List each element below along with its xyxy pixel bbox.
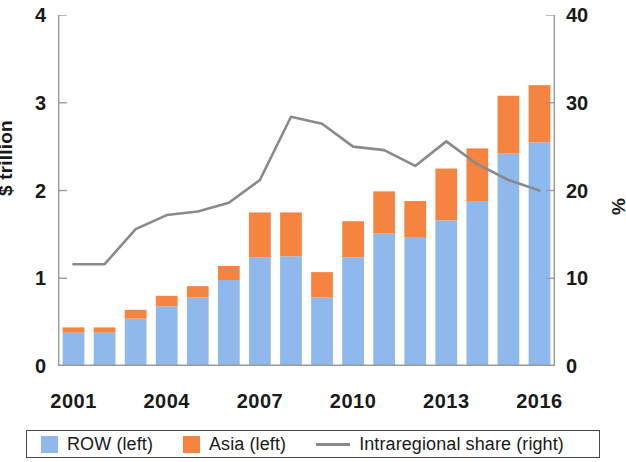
- bar-segment-row: [404, 237, 426, 366]
- bar-segment-asia: [63, 327, 85, 332]
- bar-segment-asia: [187, 286, 209, 297]
- bar-segment-row: [529, 142, 551, 366]
- bar-segment-asia: [218, 266, 240, 280]
- x-tick-label-2007: 2007: [237, 390, 284, 413]
- x-tick-label-2004: 2004: [143, 390, 190, 413]
- bar-2008: [280, 212, 302, 366]
- bar-segment-asia: [125, 310, 147, 319]
- legend-item-0[interactable]: ROW (left): [41, 434, 153, 455]
- bar-2010: [342, 221, 364, 366]
- bar-segment-asia: [342, 221, 364, 257]
- bar-2004: [156, 296, 178, 366]
- bar-segment-row: [94, 333, 116, 366]
- bar-2003: [125, 310, 147, 366]
- bar-2014: [466, 148, 488, 366]
- bar-2011: [373, 191, 395, 366]
- bars-group: [63, 85, 551, 366]
- y-axis-left-title: $ trillion: [0, 120, 17, 196]
- y-tick-label-left-3: 3: [35, 93, 46, 113]
- legend-line-icon: [316, 443, 350, 446]
- y-tick-label-left-0: 0: [35, 356, 46, 376]
- y-tick-label-right-10: 10: [566, 268, 588, 288]
- bar-segment-row: [63, 333, 85, 366]
- y-tick-label-right-0: 0: [566, 356, 577, 376]
- y-tick-label-left-4: 4: [35, 5, 46, 25]
- bar-2012: [404, 201, 426, 366]
- bar-2016: [529, 85, 551, 366]
- bar-segment-asia: [498, 96, 520, 154]
- bar-segment-row: [311, 298, 333, 366]
- bar-segment-row: [280, 256, 302, 366]
- bar-2002: [94, 327, 116, 366]
- chart-figure: $ trillion % 012340102030402001200420072…: [0, 0, 626, 462]
- bar-2015: [498, 96, 520, 366]
- legend-swatch-icon: [41, 436, 58, 453]
- legend-item-2[interactable]: Intraregional share (right): [316, 434, 564, 455]
- bar-segment-asia: [280, 212, 302, 256]
- bar-segment-row: [373, 234, 395, 367]
- bar-segment-row: [342, 257, 364, 366]
- x-tick-label-2013: 2013: [423, 390, 470, 413]
- bar-segment-row: [249, 257, 271, 366]
- plot-area: [58, 15, 555, 366]
- bar-segment-asia: [249, 212, 271, 257]
- bar-segment-asia: [466, 148, 488, 201]
- bar-2001: [63, 327, 85, 366]
- bar-segment-row: [156, 306, 178, 366]
- bar-2005: [187, 286, 209, 366]
- bar-segment-row: [187, 298, 209, 366]
- bar-segment-row: [498, 154, 520, 366]
- chart-canvas: [58, 15, 555, 366]
- bar-segment-row: [125, 319, 147, 366]
- bar-2009: [311, 272, 333, 366]
- y-axis-right-title: %: [608, 198, 626, 215]
- y-tick-label-right-40: 40: [566, 5, 588, 25]
- bar-segment-asia: [529, 85, 551, 142]
- bar-segment-asia: [94, 327, 116, 332]
- bar-2013: [435, 169, 457, 366]
- y-tick-label-right-20: 20: [566, 181, 588, 201]
- legend-swatch-icon: [183, 436, 200, 453]
- bar-segment-asia: [311, 272, 333, 297]
- legend-label: Asia (left): [209, 434, 286, 455]
- legend-label: Intraregional share (right): [359, 434, 564, 455]
- x-tick-label-2010: 2010: [330, 390, 377, 413]
- x-tick-label-2016: 2016: [516, 390, 563, 413]
- bar-segment-row: [218, 280, 240, 366]
- x-tick-label-2001: 2001: [50, 390, 97, 413]
- bar-2006: [218, 266, 240, 366]
- y-tick-label-right-30: 30: [566, 93, 588, 113]
- bar-segment-asia: [435, 169, 457, 221]
- bar-segment-asia: [373, 191, 395, 233]
- legend-item-1[interactable]: Asia (left): [183, 434, 286, 455]
- bar-segment-row: [435, 220, 457, 366]
- chart-legend: ROW (left)Asia (left)Intraregional share…: [26, 430, 600, 458]
- legend-label: ROW (left): [67, 434, 153, 455]
- bar-segment-asia: [156, 296, 178, 307]
- bar-2007: [249, 212, 271, 366]
- y-tick-label-left-1: 1: [35, 268, 46, 288]
- y-tick-label-left-2: 2: [35, 181, 46, 201]
- bar-segment-asia: [404, 201, 426, 237]
- bar-segment-row: [466, 201, 488, 366]
